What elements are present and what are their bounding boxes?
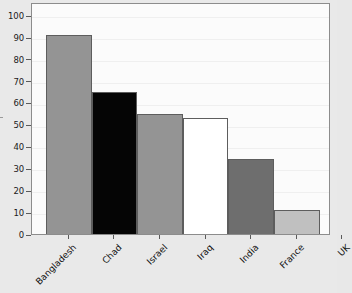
y-axis-tick-label: 30: [13, 165, 26, 174]
bar: [92, 92, 138, 234]
y-axis-tick-label: 70: [13, 78, 26, 87]
x-axis-tick-mark: [341, 235, 342, 239]
x-axis-tick-mark: [113, 235, 114, 239]
bar: [228, 159, 274, 235]
bar: [183, 118, 229, 234]
x-axis: BangladeshChadIsraelIraqIndiaFranceUK: [0, 235, 337, 293]
x-axis-tick-label: Bangladesh: [21, 243, 78, 293]
bar: [137, 114, 183, 234]
y-axis-tick-label: 20: [13, 187, 26, 196]
plot-area: [31, 3, 330, 235]
y-axis-tick-label: 90: [13, 34, 26, 43]
y-axis-tick-label: 80: [13, 56, 26, 65]
x-axis-tick-mark: [250, 235, 251, 239]
y-axis-tick-label: 100: [8, 12, 26, 21]
bar: [274, 210, 320, 234]
bar: [46, 35, 92, 234]
y-axis-tick-label: 60: [13, 99, 26, 108]
axis-edge-artifact: [0, 117, 3, 118]
x-axis-tick-mark: [68, 235, 69, 239]
x-axis-tick-mark: [205, 235, 206, 239]
y-axis-tick-label: 10: [13, 209, 26, 218]
gridline: [32, 17, 329, 18]
x-axis-tick-mark: [296, 235, 297, 239]
y-axis-tick-label: 50: [13, 121, 26, 130]
x-axis-tick-mark: [159, 235, 160, 239]
y-axis-tick-label: 40: [13, 143, 26, 152]
